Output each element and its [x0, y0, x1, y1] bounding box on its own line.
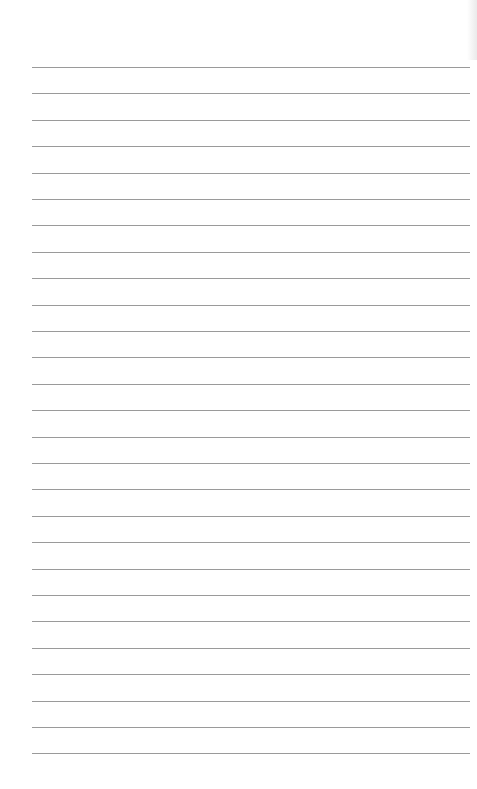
ruled-line — [32, 146, 470, 147]
ruled-line — [32, 569, 470, 570]
ruled-line — [32, 173, 470, 174]
ruled-line — [32, 674, 470, 675]
ruled-line — [32, 516, 470, 517]
ruled-line — [32, 93, 470, 94]
ruled-line — [32, 278, 470, 279]
ruled-line — [32, 727, 470, 728]
ruled-line — [32, 463, 470, 464]
ruled-line — [32, 489, 470, 490]
ruled-line — [32, 120, 470, 121]
ruled-line — [32, 357, 470, 358]
ruled-line — [32, 621, 470, 622]
ruled-line — [32, 753, 470, 754]
ruled-line — [32, 305, 470, 306]
ruled-line — [32, 410, 470, 411]
ruled-line — [32, 252, 470, 253]
ruled-line — [32, 384, 470, 385]
lined-paper-sheet — [0, 0, 477, 789]
ruled-line — [32, 331, 470, 332]
ruled-line — [32, 67, 470, 68]
ruled-line — [32, 199, 470, 200]
ruled-line — [32, 437, 470, 438]
paper-edge-shadow — [467, 0, 477, 60]
ruled-line — [32, 648, 470, 649]
ruled-line — [32, 595, 470, 596]
ruled-line — [32, 701, 470, 702]
ruled-line — [32, 225, 470, 226]
ruled-line — [32, 542, 470, 543]
